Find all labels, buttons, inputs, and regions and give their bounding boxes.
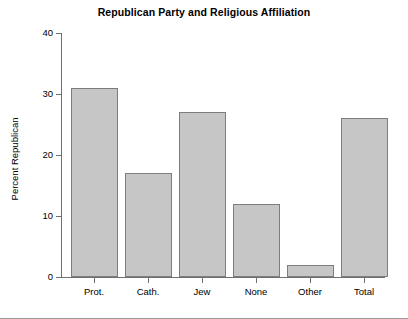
x-tick-mark [364, 278, 365, 283]
x-tick-mark [148, 278, 149, 283]
y-tick-label: 10 [42, 209, 53, 222]
y-tick-label: 20 [42, 148, 53, 161]
y-tick: 0 [61, 277, 62, 278]
y-tick-mark [56, 33, 61, 34]
x-tick-mark [256, 278, 257, 283]
x-tick-label: Jew [175, 286, 229, 297]
y-tick-mark [56, 94, 61, 95]
x-tick-label: Total [337, 286, 391, 297]
y-tick: 20 [61, 155, 62, 156]
y-axis-title: Percent Republican [9, 118, 20, 201]
x-tick-label: Cath. [121, 286, 175, 297]
y-tick: 40 [61, 33, 62, 34]
y-tick-label: 40 [42, 26, 53, 39]
x-axis-line [61, 277, 385, 278]
bar [71, 88, 118, 277]
y-tick-label: 30 [42, 87, 53, 100]
x-tick-label: None [229, 286, 283, 297]
bar [341, 118, 388, 277]
y-tick: 10 [61, 216, 62, 217]
plot-area: 010203040 Prot.Cath.JewNoneOtherTotal [61, 33, 385, 277]
bar [287, 265, 334, 277]
y-tick-mark [56, 277, 61, 278]
x-tick-mark [310, 278, 311, 283]
y-tick-label: 0 [48, 270, 53, 283]
y-tick-mark [56, 155, 61, 156]
bar [179, 112, 226, 277]
bar [125, 173, 172, 277]
x-tick-mark [94, 278, 95, 283]
y-tick: 30 [61, 94, 62, 95]
y-tick-mark [56, 216, 61, 217]
chart-title: Republican Party and Religious Affiliati… [0, 6, 408, 18]
x-tick-label: Other [283, 286, 337, 297]
x-tick-label: Prot. [67, 286, 121, 297]
bar [233, 204, 280, 277]
x-tick-mark [202, 278, 203, 283]
chart-figure: Republican Party and Religious Affiliati… [0, 0, 408, 319]
